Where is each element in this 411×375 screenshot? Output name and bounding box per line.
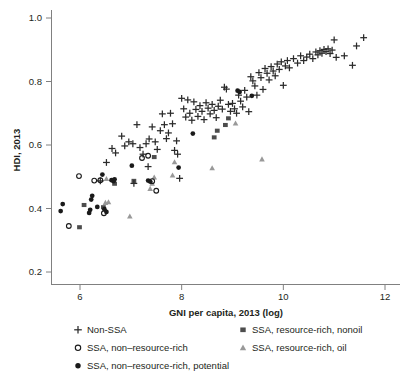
square-filled-icon — [240, 327, 245, 332]
legend-label: SSA, resource-rich, oil — [252, 342, 347, 353]
chart-background — [0, 0, 411, 375]
y-axis-title: HDI, 2013 — [11, 129, 22, 172]
data-point — [58, 209, 63, 214]
y-tick-label: 0.4 — [29, 203, 42, 214]
legend-item[interactable]: SSA, resource-rich, nonoil — [240, 324, 362, 335]
data-point — [87, 211, 92, 216]
data-point — [104, 210, 109, 215]
legend-label: SSA, non–resource-rich — [87, 342, 188, 353]
data-point — [212, 135, 217, 139]
data-point — [237, 90, 242, 95]
x-tick-label: 10 — [278, 291, 289, 302]
data-point — [77, 225, 82, 229]
data-point — [176, 165, 181, 170]
data-point — [190, 131, 195, 136]
data-point — [249, 93, 254, 98]
y-tick-label: 1.0 — [29, 12, 42, 23]
data-point — [129, 163, 134, 168]
legend-item[interactable]: SSA, resource-rich, oil — [240, 342, 347, 353]
data-point — [215, 129, 220, 133]
x-axis-title: GNI per capita, 2013 (log) — [169, 307, 283, 318]
y-tick-label: 0.8 — [29, 76, 42, 87]
legend-label: Non-SSA — [87, 324, 127, 335]
data-point — [148, 179, 153, 184]
y-tick-label: 0.2 — [29, 266, 42, 277]
x-tick-label: 6 — [77, 291, 82, 302]
data-point — [89, 197, 94, 202]
data-point — [60, 202, 65, 207]
data-point — [226, 116, 231, 120]
y-tick-label: 0.6 — [29, 139, 42, 150]
data-point — [152, 155, 157, 159]
legend-label: SSA, non–resource-rich, potential — [87, 360, 229, 371]
data-point — [82, 203, 87, 207]
scatter-plot: 0.20.40.60.81.0 681012 HDI, 2013 GNI per… — [0, 0, 411, 375]
data-point — [112, 177, 117, 182]
circle-filled-icon — [75, 363, 80, 368]
data-point — [100, 172, 105, 177]
data-point — [95, 205, 100, 210]
legend-item[interactable]: SSA, non–resource-rich, potential — [75, 360, 229, 371]
x-tick-label: 12 — [380, 291, 391, 302]
legend-label: SSA, resource-rich, nonoil — [252, 324, 362, 335]
legend-item[interactable]: SSA, non–resource-rich — [75, 342, 188, 353]
x-tick-label: 8 — [179, 291, 184, 302]
chart-figure: 0.20.40.60.81.0 681012 HDI, 2013 GNI per… — [0, 0, 411, 375]
data-point — [223, 123, 228, 127]
